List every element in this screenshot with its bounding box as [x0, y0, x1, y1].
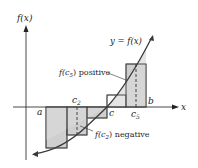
a-label: a	[37, 107, 42, 117]
negative-annotation: f(c2) negative	[94, 130, 150, 140]
curve-left-arrow-icon	[32, 151, 38, 157]
b-label: b	[148, 96, 154, 106]
c-label: c	[109, 108, 114, 118]
c5-label: c5	[131, 109, 140, 120]
curve-label: y = f(x)	[109, 36, 142, 46]
curve-right-arrow-icon	[149, 35, 154, 41]
x-axis-label: x	[181, 102, 186, 112]
y-axis-label: f(x)	[16, 13, 33, 23]
riemann-sum-diagram: f(x) x y = f(x) a b c c2 c5 f(c5) positi…	[0, 0, 198, 168]
positive-leader-line	[108, 73, 126, 80]
x-axis-arrow-icon	[172, 105, 179, 110]
positive-annotation: f(c5) positive	[58, 68, 111, 78]
c2-label: c2	[72, 95, 81, 106]
y-axis-arrow-icon	[24, 25, 29, 32]
